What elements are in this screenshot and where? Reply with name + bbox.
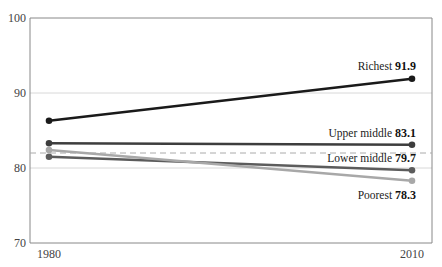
data-point-lower-middle xyxy=(46,153,53,160)
series-richest xyxy=(46,75,416,124)
data-point-richest xyxy=(46,117,53,124)
series-label-upper-middle: Upper middle 83.1 xyxy=(329,126,416,140)
series-label-richest: Richest 91.9 xyxy=(358,59,416,73)
data-point-upper-middle xyxy=(409,141,416,148)
line-chart: 708090100 19802010 Richest 91.9Upper mid… xyxy=(0,0,442,267)
series-line-richest xyxy=(49,79,412,121)
data-point-poorest xyxy=(46,147,53,154)
data-point-poorest xyxy=(409,177,416,184)
series-upper-middle xyxy=(46,140,416,148)
x-tick-2010: 2010 xyxy=(400,247,424,261)
data-point-richest xyxy=(409,75,416,82)
series-label-lower-middle: Lower middle 79.7 xyxy=(327,151,416,165)
y-tick-80: 80 xyxy=(14,161,26,175)
data-point-lower-middle xyxy=(409,167,416,174)
y-tick-90: 90 xyxy=(14,86,26,100)
y-tick-labels: 708090100 xyxy=(8,11,26,250)
y-tick-70: 70 xyxy=(14,236,26,250)
x-tick-1980: 1980 xyxy=(37,247,61,261)
series-line-upper-middle xyxy=(49,143,412,145)
series-label-poorest: Poorest 78.3 xyxy=(358,188,416,202)
x-tick-labels: 19802010 xyxy=(37,247,424,261)
data-point-upper-middle xyxy=(46,140,53,147)
y-tick-100: 100 xyxy=(8,11,26,25)
